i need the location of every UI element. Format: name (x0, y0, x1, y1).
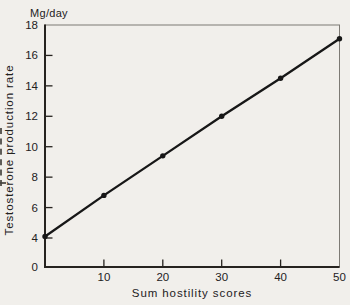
scan-edge-mark (0, 182, 6, 184)
x-tick-label: 40 (274, 271, 287, 283)
y-tick-label: 16 (25, 49, 38, 61)
y-tick-label: 6 (32, 202, 38, 214)
data-line (45, 39, 340, 237)
data-point (337, 36, 342, 41)
y-tick-label: 10 (25, 141, 38, 153)
x-tick-label: 30 (215, 271, 228, 283)
y-tick-label: 4 (32, 232, 39, 244)
y-tick-label: 12 (25, 110, 38, 122)
plot-frame (45, 25, 340, 267)
data-point (219, 114, 224, 119)
x-tick-label: 20 (156, 271, 169, 283)
chart-generated-layer: 181614121086401020304050 (25, 19, 346, 283)
x-tick-label: 10 (98, 271, 111, 283)
chart-figure: 181614121086401020304050 Mg/day Sum host… (0, 0, 350, 305)
y-tick-label: 8 (32, 171, 38, 183)
scan-edge-artifact (0, 128, 2, 186)
data-point (101, 193, 106, 198)
hostility-testosterone-line-chart: 181614121086401020304050 Mg/day Sum host… (0, 0, 350, 305)
y-tick-label: 18 (25, 19, 38, 31)
y-axis-unit-label: Mg/day (30, 7, 68, 19)
y-tick-label: 0 (32, 261, 38, 273)
x-tick-label: 50 (333, 271, 346, 283)
y-axis-title: Testosterone production rate (3, 65, 15, 236)
data-point (278, 76, 283, 81)
y-tick-label: 14 (25, 80, 38, 92)
data-point (160, 153, 165, 158)
x-axis-title: Sum hostility scores (132, 287, 252, 299)
data-point (42, 234, 47, 239)
